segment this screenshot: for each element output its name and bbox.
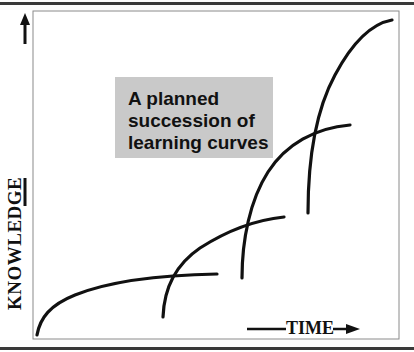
learning-curves-diagram bbox=[0, 0, 414, 352]
y-axis-label: KNOWLEDGE bbox=[4, 10, 28, 310]
caption-line-3: learning curves bbox=[128, 132, 273, 154]
curve-2 bbox=[163, 217, 284, 317]
caption-line-1: A planned bbox=[128, 88, 273, 110]
caption-line-2: succession of bbox=[128, 110, 273, 132]
curve-4 bbox=[308, 20, 392, 213]
x-axis-arrowhead-icon bbox=[346, 324, 360, 334]
curve-1 bbox=[37, 274, 217, 335]
caption-box: A planned succession of learning curves bbox=[115, 77, 273, 158]
x-axis-label: TIME bbox=[286, 318, 334, 339]
